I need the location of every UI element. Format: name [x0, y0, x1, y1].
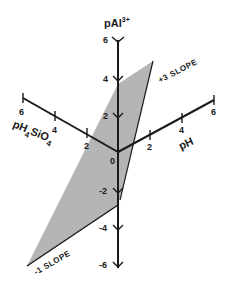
- left-tick-6: 6: [19, 107, 24, 117]
- vertical-tick-6: 6: [103, 35, 108, 45]
- vertical-tick-0: 0: [110, 156, 115, 166]
- right-tick-6: 6: [211, 107, 216, 117]
- upper-slope-label: +3 SLOPE: [157, 57, 199, 84]
- vertical-tick-neg2: -2: [99, 186, 107, 196]
- right-axis-title: pH: [177, 135, 195, 152]
- vertical-tick-neg6: -6: [99, 260, 107, 270]
- vertical-axis-title: pAl3+: [104, 16, 130, 29]
- vertical-tick-4: 4: [103, 74, 108, 84]
- vertical-tick-neg4: -4: [99, 223, 107, 233]
- right-tick-2: 2: [147, 142, 152, 152]
- left-tick-2: 2: [84, 141, 89, 151]
- shaded-plane: [27, 61, 153, 266]
- left-axis-title: pH4SiO4: [10, 118, 56, 149]
- left-tick-4: 4: [52, 125, 57, 135]
- solubility-plane-diagram: pAl3+ 6 4 2 0 -2 -4 -6 2 4 6 pH4SiO4 2 4…: [0, 0, 229, 286]
- right-tick-4: 4: [179, 125, 184, 135]
- vertical-tick-2: 2: [103, 111, 108, 121]
